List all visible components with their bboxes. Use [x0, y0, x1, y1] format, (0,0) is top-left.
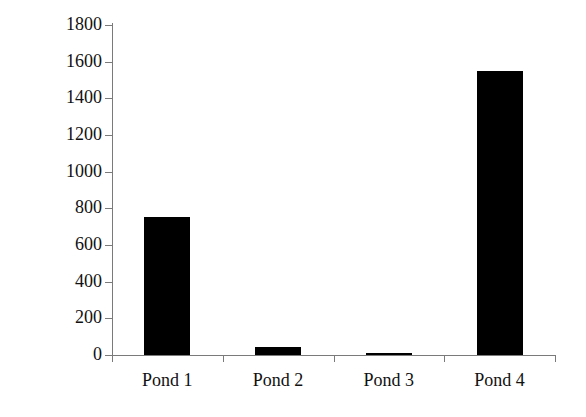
y-axis-tick-label-wrap: 200 — [40, 318, 102, 319]
y-axis-tick — [105, 98, 112, 99]
x-axis-label-1: Pond 1 — [112, 370, 222, 391]
y-axis-tick — [105, 62, 112, 63]
x-axis-tick — [223, 355, 224, 362]
bar-pond-2 — [255, 347, 301, 355]
y-axis-tick-label: 1600 — [42, 51, 102, 72]
y-axis-tick-label: 1800 — [42, 14, 102, 35]
bar-pond-4 — [477, 71, 523, 355]
y-axis-tick — [105, 245, 112, 246]
y-axis-tick — [105, 135, 112, 136]
y-axis-tick-label-wrap: 1000 — [40, 172, 102, 173]
y-axis-tick-label: 600 — [42, 234, 102, 255]
y-axis-tick-label: 1200 — [42, 124, 102, 145]
y-axis-line — [112, 23, 113, 357]
x-axis-tick — [444, 355, 445, 362]
y-axis-tick-label-wrap: 1200 — [40, 135, 102, 136]
y-axis-tick-label: 200 — [42, 307, 102, 328]
y-axis-tick-label: 1400 — [42, 87, 102, 108]
y-axis-tick-label-wrap: 400 — [40, 282, 102, 283]
x-axis-tick — [112, 355, 113, 362]
y-axis-tick-label-wrap: 1600 — [40, 62, 102, 63]
y-axis-tick-label: 0 — [42, 344, 102, 365]
bar-pond-1 — [144, 217, 190, 355]
bar-pond-3 — [366, 353, 412, 355]
y-axis-tick-label-wrap: 1400 — [40, 98, 102, 99]
y-axis-tick — [105, 318, 112, 319]
x-axis-tick — [555, 355, 556, 362]
x-axis-label-3: Pond 3 — [334, 370, 444, 391]
y-axis-tick — [105, 208, 112, 209]
y-axis-tick — [105, 172, 112, 173]
y-axis-tick-label: 800 — [42, 197, 102, 218]
y-axis-tick-label-wrap: 1800 — [40, 25, 102, 26]
x-axis-label-4: Pond 4 — [445, 370, 555, 391]
y-axis-tick-label-wrap: 0 — [40, 355, 102, 356]
y-axis-tick-label: 1000 — [42, 161, 102, 182]
y-axis-tick-label: 400 — [42, 271, 102, 292]
y-axis-tick-label-wrap: 600 — [40, 245, 102, 246]
y-axis-tick — [105, 355, 112, 356]
y-axis-tick — [105, 25, 112, 26]
bar-chart-figure: Zooplankton biomass (µg l-1) 02004006008… — [0, 0, 586, 417]
x-axis-tick — [334, 355, 335, 362]
x-axis-label-2: Pond 2 — [223, 370, 333, 391]
y-axis-tick — [105, 282, 112, 283]
y-axis-tick-label-wrap: 800 — [40, 208, 102, 209]
